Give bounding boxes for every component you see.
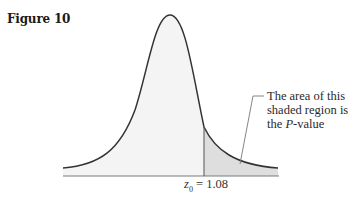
callout-line-1: The area of this (267, 89, 348, 103)
callout-line-3: the P-value (267, 117, 348, 131)
callout-line-2: shaded region is (267, 103, 348, 117)
callout-annotation: The area of this shaded region is the P-… (267, 89, 348, 131)
shaded-tail-region (204, 127, 278, 176)
curve-body-fill (63, 15, 204, 176)
callout-leader-line (240, 96, 264, 164)
critical-value-label: z0 = 1.08 (184, 177, 228, 194)
